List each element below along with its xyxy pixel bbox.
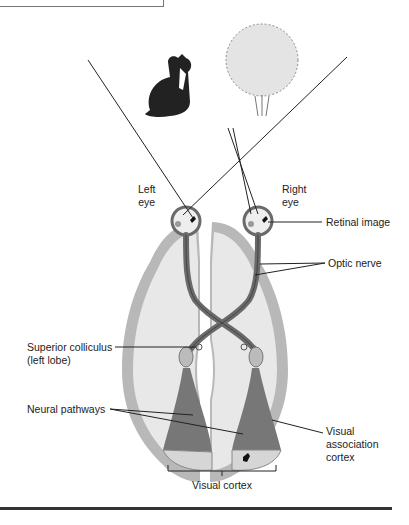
superior-colliculus-label-line2: (left lobe) [27, 354, 112, 367]
right-eye-label-line1: Right [282, 183, 307, 196]
right-eye-label-line2: eye [282, 196, 307, 209]
cat-image [145, 54, 191, 117]
visual-cortex-label: Visual cortex [192, 479, 252, 492]
vac-label-line1: Visual [326, 425, 379, 438]
left-eye-shape [172, 207, 200, 235]
left-eye-label: Left eye [138, 183, 156, 209]
right-lgn [249, 347, 263, 367]
left-eye-label-line2: eye [138, 196, 156, 209]
optic-nerve-label: Optic nerve [328, 257, 382, 270]
retinal-image-label: Retinal image [326, 216, 390, 229]
vac-label-line2: association [326, 438, 379, 451]
superior-colliculus-label: Superior colliculus (left lobe) [27, 341, 112, 367]
right-eye-shape [244, 207, 272, 235]
left-eye-label-line1: Left [138, 183, 156, 196]
visual-association-cortex-label: Visual association cortex [326, 425, 379, 464]
bottom-rule [0, 507, 392, 510]
vac-label-line3: cortex [326, 451, 379, 464]
sight-lines [88, 57, 347, 218]
right-eye-label: Right eye [282, 183, 307, 209]
left-lgn [179, 347, 193, 367]
bush-image [226, 24, 298, 116]
superior-colliculus-label-line1: Superior colliculus [27, 341, 112, 354]
neural-pathways-label: Neural pathways [27, 403, 105, 416]
